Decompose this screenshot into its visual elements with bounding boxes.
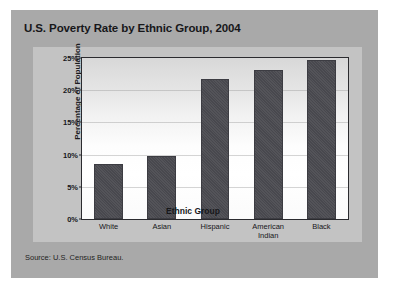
bar-slot: Hispanic [188,58,241,219]
x-axis-tick-label: Hispanic [201,222,230,231]
bar [254,70,283,219]
chart-card: U.S. Poverty Rate by Ethnic Group, 2004 … [11,10,378,278]
bar-slot: Asian [135,58,188,219]
x-axis-tick-label: American Indian [252,222,284,240]
bar-slot: American Indian [242,58,295,219]
y-axis-tick-label: 15% [63,118,78,127]
x-axis-tick-label: Asian [152,222,171,231]
bar-slot: Black [295,58,348,219]
bar-slot: White [82,58,135,219]
y-axis-tick-label: 20% [63,86,78,95]
bar [201,79,230,219]
bar [307,60,336,219]
page-title: U.S. Poverty Rate by Ethnic Group, 2004 [24,22,241,34]
bar-series: WhiteAsianHispanicAmerican IndianBlack [82,58,348,219]
x-axis-tick-label: Black [312,222,330,231]
y-axis-tick-label: 5% [67,182,78,191]
plot-area: 0%5%10%15%20%25% WhiteAsianHispanicAmeri… [81,57,349,220]
y-axis-tick-label: 25% [63,54,78,63]
y-axis-tick-label: 10% [63,150,78,159]
x-axis-tick-label: White [99,222,118,231]
page-background: U.S. Poverty Rate by Ethnic Group, 2004 … [0,0,395,293]
source-note: Source: U.S. Census Bureau. [25,253,123,262]
x-axis-title: Ethnic Group [59,206,327,216]
